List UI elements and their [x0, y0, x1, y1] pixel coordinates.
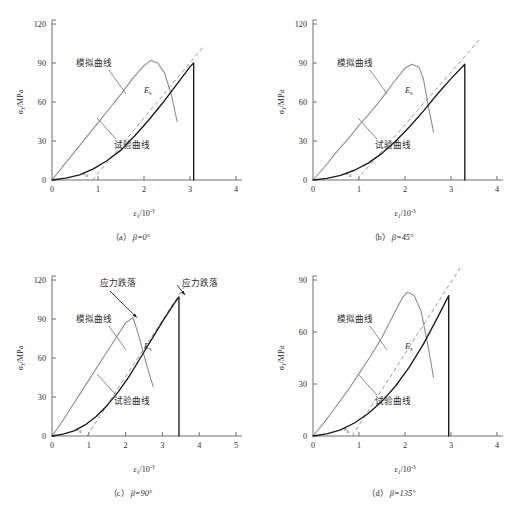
x-axis-title: ε1/10-3	[133, 464, 154, 475]
y-tick-label: 60	[38, 98, 46, 107]
x-tick-label: 2	[403, 185, 407, 194]
panel-d: 030609001234σ1/MPaε1/10-3（d） β=135°模拟曲线试…	[261, 256, 522, 511]
panel-caption: （d） β=135°	[367, 489, 416, 498]
x-tick-label: 1	[357, 185, 361, 194]
experimental-curve	[52, 63, 194, 180]
stress-drop-annotation: 应力跌落	[182, 277, 218, 288]
axes: 030609001234	[299, 276, 503, 450]
y-tick-label: 90	[38, 315, 46, 324]
y-tick-label: 60	[299, 328, 307, 337]
x-tick-label: 3	[449, 185, 453, 194]
panel-b: 030609012001234σ1/MPaε1/10-3（b） β=45°模拟曲…	[261, 0, 522, 255]
x-tick-label: 0	[311, 441, 315, 450]
simulated-curve-leader-line	[370, 70, 387, 94]
y-axis-title: σ1/MPa	[277, 345, 287, 370]
x-tick-label: 4	[197, 441, 201, 450]
x-tick-label: 3	[188, 185, 192, 194]
experimental-curve-leader-line	[358, 374, 377, 395]
x-tick-label: 3	[449, 441, 453, 450]
experimental-curve	[313, 64, 465, 180]
simulated-curve	[52, 317, 153, 435]
simulated-curve	[313, 64, 434, 180]
x-tick-label: 0	[50, 185, 54, 194]
experimental-curve-label: 试验曲线	[114, 395, 150, 406]
x-tick-label: 1	[87, 441, 91, 450]
x-tick-label: 4	[495, 185, 499, 194]
simulated-curve-label: 模拟曲线	[76, 57, 112, 68]
simulated-curve-label: 模拟曲线	[337, 57, 373, 68]
simulated-curve-leader-line	[370, 326, 387, 350]
panel-a: 030609012001234σ1/MPaε1/10-3（a） β=0°模拟曲线…	[0, 0, 261, 255]
experimental-curve-label: 试验曲线	[114, 139, 150, 150]
experimental-curve	[52, 296, 179, 435]
panel-caption: （a） β=0°	[111, 233, 151, 242]
y-tick-label: 0	[303, 432, 307, 441]
x-tick-label: 2	[124, 441, 128, 450]
x-axis-title: ε1/10-3	[394, 464, 415, 475]
panel-caption: （b） β=45°	[370, 233, 414, 242]
stress-drop-arrow	[110, 291, 137, 318]
panel-c: 0306090120012345σ1/MPaε1/10-3（c） β=90°模拟…	[0, 256, 261, 511]
y-tick-label: 60	[38, 354, 46, 363]
y-tick-label: 60	[299, 98, 307, 107]
y-tick-label: 30	[299, 137, 307, 146]
x-tick-label: 1	[96, 185, 100, 194]
figure-root: 030609012001234σ1/MPaε1/10-3（a） β=0°模拟曲线…	[0, 0, 522, 511]
x-axis-title: ε1/10-3	[133, 208, 154, 219]
y-axis-title: σ1/MPa	[16, 89, 26, 114]
experimental-curve-label: 试验曲线	[375, 139, 411, 150]
y-tick-label: 30	[38, 137, 46, 146]
simulated-curve-label: 模拟曲线	[337, 313, 373, 324]
y-tick-label: 30	[299, 380, 307, 389]
y-tick-label: 0	[42, 432, 46, 441]
x-tick-label: 0	[311, 185, 315, 194]
simulated-curve	[313, 292, 434, 436]
secant-modulus-label: Es	[143, 86, 152, 96]
y-axis-title: σ1/MPa	[277, 89, 287, 114]
x-tick-label: 1	[357, 441, 361, 450]
secant-modulus-label: Es	[143, 341, 152, 351]
x-tick-label: 4	[234, 185, 238, 194]
x-tick-label: 2	[142, 185, 146, 194]
x-tick-label: 3	[160, 441, 164, 450]
x-tick-label: 4	[495, 441, 499, 450]
y-tick-label: 120	[295, 20, 307, 29]
y-axis-title: σ1/MPa	[16, 345, 26, 370]
x-tick-label: 0	[50, 441, 54, 450]
simulated-curve-label: 模拟曲线	[76, 313, 112, 324]
y-tick-label: 90	[38, 59, 46, 68]
panel-caption: （c） β=90°	[109, 489, 153, 498]
y-tick-label: 120	[34, 20, 46, 29]
simulated-curve-leader-line	[109, 70, 126, 94]
y-tick-label: 30	[38, 393, 46, 402]
y-tick-label: 120	[34, 276, 46, 285]
experimental-curve-leader-line	[358, 118, 377, 139]
secant-modulus-label: Es	[404, 341, 413, 351]
experimental-curve-leader-line	[97, 374, 116, 395]
axes: 030609012001234	[295, 20, 503, 194]
eps0-label: ε0	[346, 169, 352, 178]
simulated-curve-leader-line	[109, 326, 126, 350]
y-tick-label: 90	[299, 59, 307, 68]
eps0-label: ε0	[83, 169, 89, 178]
x-tick-label: 5	[234, 441, 238, 450]
y-tick-label: 0	[42, 176, 46, 185]
y-tick-label: 0	[303, 176, 307, 185]
secant-modulus-label: Es	[404, 86, 413, 96]
axes: 030609012001234	[34, 20, 242, 194]
experimental-curve-leader-line	[97, 118, 116, 139]
stress-drop-annotation: 应力跌落	[100, 277, 136, 288]
experimental-curve-label: 试验曲线	[375, 395, 411, 406]
x-axis-title: ε1/10-3	[394, 208, 415, 219]
y-tick-label: 90	[299, 276, 307, 285]
x-tick-label: 2	[403, 441, 407, 450]
